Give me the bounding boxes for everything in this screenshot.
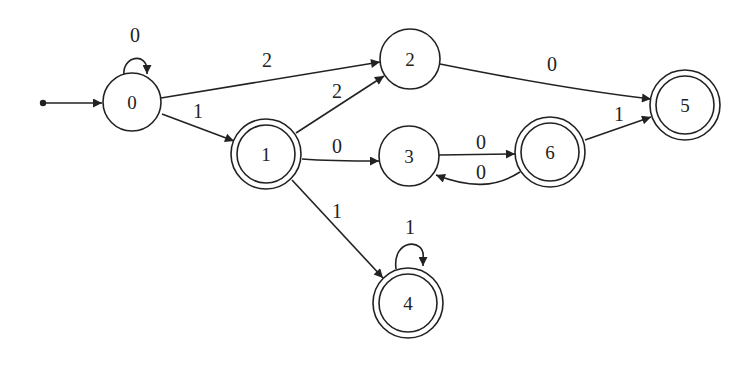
state-label: 6 (545, 142, 555, 163)
start-arrow (40, 100, 102, 106)
edge-label: 0 (476, 161, 486, 183)
edge-6-5: 1 (585, 103, 651, 140)
state-4: 4 (373, 268, 443, 338)
state-2: 2 (380, 29, 440, 89)
edge-label: 1 (405, 216, 415, 238)
state-label: 3 (404, 146, 414, 167)
edge-label: 1 (614, 103, 624, 125)
edge-label: 0 (476, 131, 486, 153)
edge-label: 1 (193, 100, 203, 122)
state-3: 3 (379, 126, 439, 186)
edge-4-4: 1 (396, 216, 424, 269)
automaton-diagram: 0 2 1 2 0 1 1 0 0 0 (0, 0, 756, 383)
state-0: 0 (103, 73, 161, 131)
edge-1-3: 0 (302, 135, 379, 161)
edge-label: 2 (332, 80, 342, 102)
state-label: 5 (680, 95, 690, 116)
state-label: 0 (127, 92, 137, 113)
edge-label: 0 (332, 135, 342, 157)
state-label: 4 (403, 293, 413, 314)
state-1: 1 (231, 119, 301, 189)
state-5: 5 (650, 70, 720, 140)
edge-3-6: 0 (439, 131, 515, 155)
edge-label: 0 (547, 53, 557, 75)
edge-6-3: 0 (436, 161, 520, 184)
edge-2-5: 0 (440, 53, 651, 99)
edge-label: 0 (130, 24, 140, 46)
state-label: 2 (405, 49, 415, 70)
state-label: 1 (261, 144, 271, 165)
edge-0-1: 1 (162, 100, 234, 141)
state-6: 6 (515, 117, 585, 187)
edge-label: 2 (262, 49, 272, 71)
edge-label: 1 (332, 200, 342, 222)
edge-0-2: 2 (161, 49, 380, 98)
edge-1-2: 2 (296, 76, 384, 133)
edge-1-4: 1 (292, 180, 383, 278)
edge-0-0: 0 (124, 24, 147, 75)
